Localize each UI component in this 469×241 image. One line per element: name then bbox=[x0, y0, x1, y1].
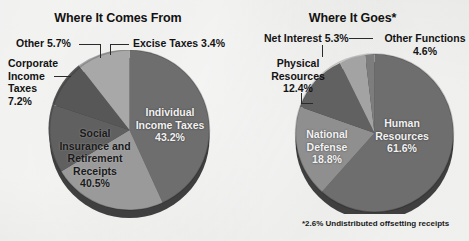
chart-panel-where-it-comes-from: Where It Comes From bbox=[0, 0, 236, 241]
slice-label-national-defense: National Defense 18.8% bbox=[291, 128, 363, 166]
callout-net-interest: Net Interest 5.3% bbox=[264, 32, 349, 45]
leader-line-other-v bbox=[100, 44, 101, 58]
slice-label-human-resources: Human Resources 61.6% bbox=[362, 117, 442, 155]
leader-line-physical-h bbox=[301, 103, 313, 104]
leader-line-corporate-h bbox=[54, 76, 71, 77]
leader-line-excise-h bbox=[110, 44, 129, 45]
callout-other-functions: Other Functions 4.6% bbox=[380, 32, 469, 57]
leader-line-excise-v bbox=[110, 44, 111, 55]
chart-title-where-it-goes: Where It Goes* bbox=[236, 11, 469, 25]
chart-panel-where-it-goes: Where It Goes* Human Res bbox=[236, 0, 469, 241]
leader-line-other-functions-h bbox=[349, 38, 373, 39]
footnote-undistributed-offsetting-receipts: *2.6% Undistributed offsetting receipts bbox=[302, 219, 449, 228]
callout-excise-taxes: Excise Taxes 3.4% bbox=[133, 37, 225, 50]
leader-line-other-h bbox=[79, 44, 101, 45]
figure-root: Where It Comes From bbox=[0, 0, 469, 241]
callout-other: Other 5.7% bbox=[16, 37, 71, 50]
slice-label-social-insurance: Social Insurance and Retirement Receipts… bbox=[49, 127, 141, 190]
leader-line-net-interest-v bbox=[322, 45, 323, 57]
callout-corporate-income-taxes: Corporate Income Taxes 7.2% bbox=[8, 57, 58, 107]
chart-title-where-it-comes-from: Where It Comes From bbox=[0, 11, 236, 25]
callout-physical-resources: Physical Resources 12.4% bbox=[258, 57, 338, 95]
